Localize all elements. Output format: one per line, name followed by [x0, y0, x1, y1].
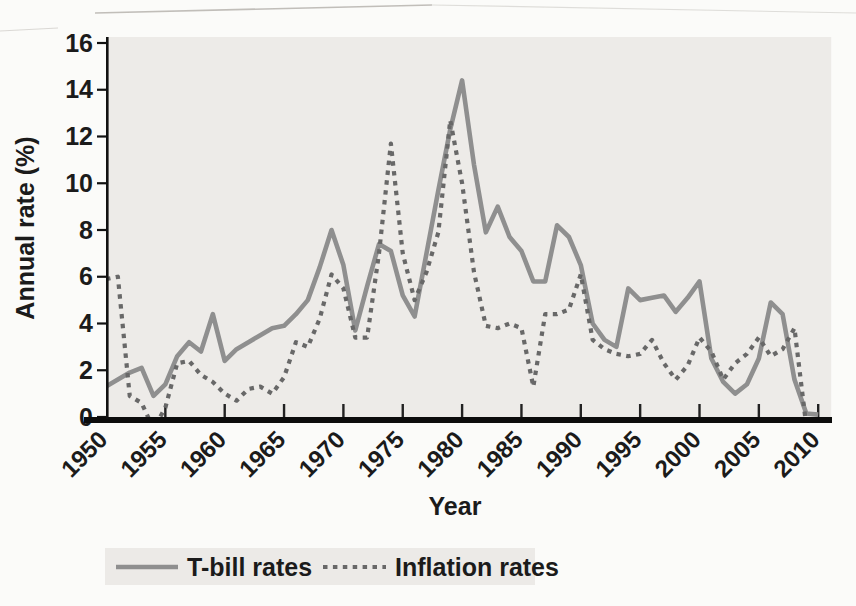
y-tick-label-2: 2	[79, 356, 93, 384]
y-axis-line	[106, 37, 109, 419]
x-tick-label-1965: 1965	[234, 425, 291, 482]
x-tick-label-2010: 2010	[768, 425, 825, 482]
plot-area	[107, 37, 831, 417]
y-tick-label-4: 4	[79, 309, 93, 337]
x-tick-label-2005: 2005	[709, 425, 766, 482]
inflation-legend-label: Inflation rates	[395, 553, 559, 581]
chart: 0246810121416195019551960196519701975198…	[0, 0, 856, 606]
y-tick-label-10: 10	[65, 169, 93, 197]
tbill-legend-label: T-bill rates	[187, 553, 312, 581]
scan-artifact-line	[432, 5, 856, 13]
x-axis-line	[84, 417, 832, 423]
x-tick-label-1955: 1955	[115, 425, 172, 482]
x-tick-label-1980: 1980	[412, 425, 469, 482]
scan-artifact-line	[0, 28, 58, 31]
y-tick-label-8: 8	[79, 216, 93, 244]
x-tick-label-1990: 1990	[530, 425, 587, 482]
y-axis-title: Annual rate (%)	[11, 136, 39, 319]
x-tick-label-1995: 1995	[590, 425, 647, 482]
x-tick-label-1975: 1975	[352, 425, 409, 482]
y-tick-label-16: 16	[65, 29, 93, 57]
x-tick-label-1950: 1950	[56, 425, 113, 482]
y-tick-label-0: 0	[79, 403, 93, 431]
figure-scan: 0246810121416195019551960196519701975198…	[0, 0, 856, 606]
x-tick-label-1960: 1960	[174, 425, 231, 482]
scan-artifact-line	[95, 5, 432, 13]
y-tick-label-14: 14	[65, 75, 93, 103]
legend: T-bill rates Inflation rates	[105, 548, 559, 585]
x-tick-label-1985: 1985	[471, 425, 528, 482]
x-tick-label-2000: 2000	[649, 425, 706, 482]
y-tick-label-6: 6	[79, 262, 93, 290]
x-axis-title: Year	[429, 492, 482, 520]
x-tick-label-1970: 1970	[293, 425, 350, 482]
y-tick-label-12: 12	[65, 122, 93, 150]
